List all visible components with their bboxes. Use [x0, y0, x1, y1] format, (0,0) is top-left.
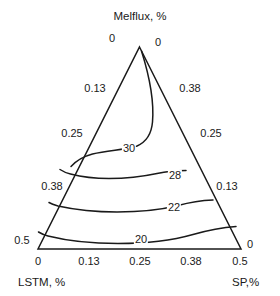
left-axis-tick-1: 0.25 [61, 128, 82, 139]
triangle-outline [38, 47, 241, 249]
bottom-axis-tick-0: 0 [35, 256, 41, 267]
right-axis-tick-0: 0.38 [179, 83, 200, 94]
bottom-axis-tick-4: 0.5 [232, 256, 247, 267]
triangle-border [38, 47, 241, 249]
contour-line-22 [49, 200, 213, 212]
left-axis-tick-2: 0.38 [41, 181, 62, 192]
top-axis-title: Melflux, % [113, 11, 166, 22]
right-axis-title: SP,% [232, 277, 259, 288]
ternary-contour-diagram: Melflux, % 0 0 0.13 0.25 0.38 0.5 0.38 0… [0, 0, 280, 296]
left-axis-tick-3: 0.5 [14, 235, 29, 246]
right-axis-tick-2: 0.13 [216, 181, 237, 192]
contour-label-30: 30 [122, 143, 136, 154]
right-axis-tick-1: 0.25 [200, 128, 221, 139]
left-axis-title: LSTM, % [18, 277, 65, 288]
contour-line-30 [71, 51, 153, 167]
bottom-axis-tick-3: 0.38 [180, 256, 201, 267]
contour-label-28: 28 [168, 170, 182, 181]
left-axis-tick-0: 0.13 [84, 83, 105, 94]
right-axis-tick-3: 0 [247, 239, 253, 250]
bottom-axis-tick-2: 0.25 [129, 256, 150, 267]
apex-tick-right-zero: 0 [155, 37, 161, 48]
contour-label-20: 20 [134, 234, 148, 245]
ternary-plot-svg [0, 0, 280, 296]
bottom-axis-tick-1: 0.13 [78, 256, 99, 267]
contour-lines [39, 51, 237, 244]
contour-label-22: 22 [167, 202, 181, 213]
apex-tick-left-zero: 0 [109, 33, 115, 44]
